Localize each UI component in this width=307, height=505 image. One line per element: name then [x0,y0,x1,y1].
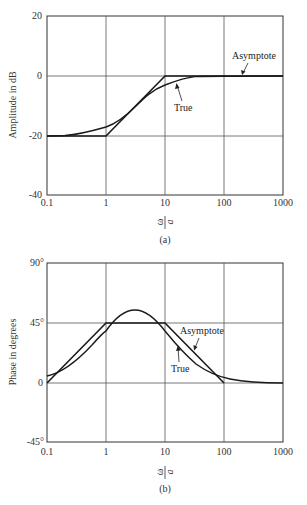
phase-xlabel: ω a [154,468,175,475]
phase-chart: 90° 45° 0 -45° 0.1 1 10 100 1000 Phase i… [7,257,293,495]
amplitude-ylabel: Amplitude in dB [7,71,18,139]
amplitude-grid [47,16,283,195]
amplitude-ytick-20: 20 [32,10,42,21]
amplitude-ytick-0: 0 [37,70,42,81]
amplitude-annotation-true: True [174,102,193,113]
amplitude-annotation-asymptote: Asymptote [232,50,276,61]
phase-grid [47,263,283,442]
amplitude-xtick-0.1: 0.1 [41,197,54,208]
amplitude-xtick-100: 100 [217,197,232,208]
phase-ylabel: Phase in degrees [7,319,18,386]
amplitude-xlabel-den: a [164,220,175,225]
amplitude-xtick-1000: 1000 [273,197,293,208]
amplitude-ytick-neg20: -20 [29,130,42,141]
phase-caption: (b) [159,483,171,495]
phase-xtick-10: 10 [160,446,170,457]
amplitude-chart: 20 0 -20 -40 0.1 1 10 100 1000 Amplitude… [7,10,293,246]
amplitude-asymptote-arrowhead-icon [241,70,246,75]
amplitude-true-arrowhead-icon [175,83,180,89]
amplitude-xtick-1: 1 [104,197,109,208]
phase-xtick-0.1: 0.1 [41,446,54,457]
amplitude-caption: (a) [159,234,170,246]
phase-ytick-45: 45° [30,317,44,328]
phase-xtick-1: 1 [104,446,109,457]
phase-annotation-true: True [171,363,190,374]
phase-ytick-90: 90° [30,257,44,268]
phase-annotation-asymptote: Asymptote [180,325,224,336]
figure: 20 0 -20 -40 0.1 1 10 100 1000 Amplitude… [0,0,307,505]
amplitude-xlabel: ω a [154,218,175,225]
phase-ytick-0: 0 [38,377,43,388]
phase-xtick-1000: 1000 [273,446,293,457]
phase-xtick-100: 100 [217,446,232,457]
phase-xlabel-den: a [164,470,175,475]
amplitude-xtick-10: 10 [160,197,170,208]
